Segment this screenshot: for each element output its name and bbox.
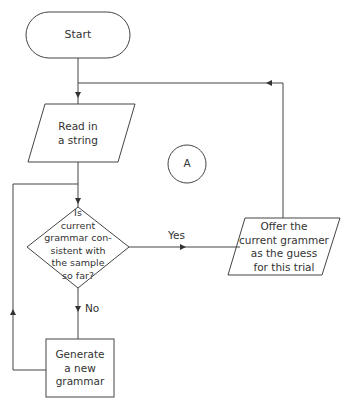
yes-label: Yes	[168, 229, 185, 243]
generate-line-1: Generate	[46, 348, 114, 362]
generate-label: Generate a new grammar	[46, 348, 114, 389]
decision-line: so far?	[28, 270, 128, 283]
decision-line: the sample	[28, 257, 128, 270]
arrow-head	[75, 92, 81, 98]
offer-line-3: as the guess	[232, 247, 336, 261]
decision-line: sistent with	[28, 245, 128, 258]
arrow-head	[180, 244, 186, 250]
arrow-head	[75, 198, 81, 204]
offer-line-1: Offer the	[232, 220, 336, 234]
offer-label: Offer the current grammer as the guess f…	[232, 220, 336, 274]
arrow-head	[266, 80, 272, 86]
decision-line: grammar con-	[28, 232, 128, 245]
no-label: No	[85, 302, 99, 316]
generate-line-2: a new	[46, 362, 114, 376]
arrow-head	[10, 309, 16, 315]
read-label: Read in a string	[30, 120, 126, 147]
offer-line-2: current grammer	[232, 234, 336, 248]
start-label: Start	[26, 28, 130, 42]
decision-label: Is current grammar con- sistent with the…	[28, 207, 128, 282]
arrow-head	[75, 306, 81, 312]
decision-line: Is	[28, 207, 128, 220]
read-line-1: Read in	[30, 120, 126, 134]
read-line-2: a string	[30, 134, 126, 148]
connector-label: A	[168, 157, 206, 171]
offer-line-4: for this trial	[232, 261, 336, 275]
decision-line: current	[28, 220, 128, 233]
generate-line-3: grammar	[46, 375, 114, 389]
